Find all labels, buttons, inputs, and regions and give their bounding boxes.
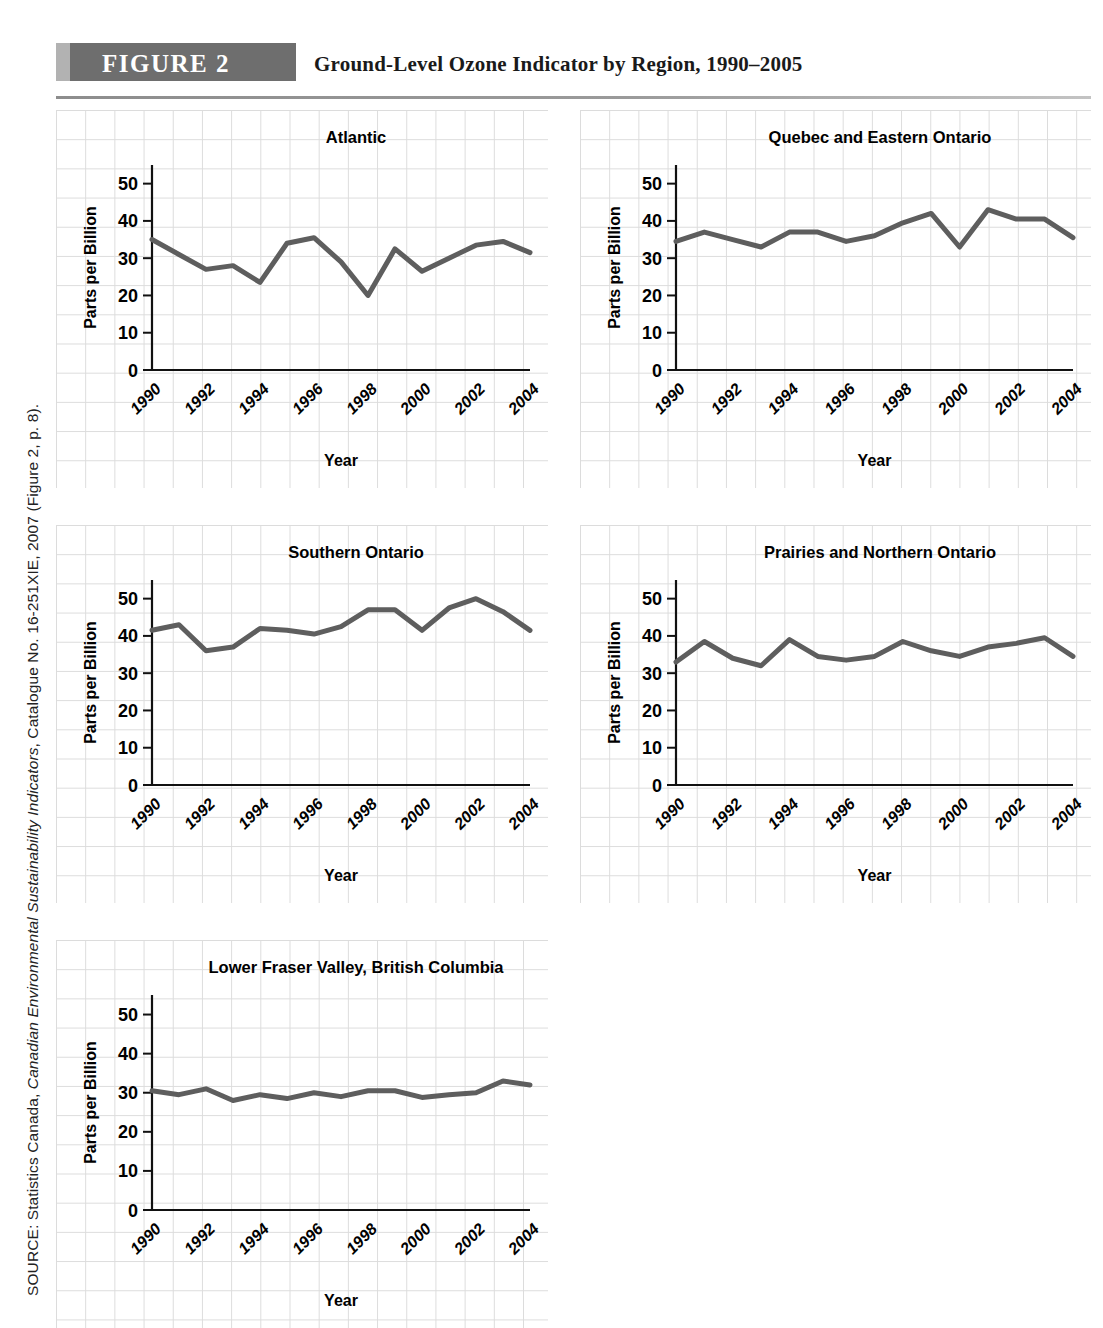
y-tick-label: 40	[642, 211, 662, 231]
figure-title: Ground-Level Ozone Indicator by Region, …	[314, 52, 803, 77]
x-tick-label: 1998	[878, 380, 915, 417]
y-tick-label: 0	[128, 1201, 138, 1221]
plot-title: Atlantic	[326, 128, 387, 146]
y-tick-label: 20	[642, 701, 662, 721]
figure-number-label: FIGURE 2	[102, 50, 230, 78]
data-series-line	[676, 638, 1073, 666]
y-tick-label: 0	[652, 776, 662, 796]
x-tick-label: 1996	[289, 795, 326, 832]
x-tick-label: 1992	[181, 1220, 218, 1257]
x-tick-label: 1992	[708, 380, 745, 417]
y-tick-label: 30	[118, 664, 138, 684]
panel-prairies-svg: Prairies and Northern Ontario01020304050…	[580, 525, 1091, 903]
plot-title: Prairies and Northern Ontario	[764, 543, 996, 561]
y-tick-label: 50	[118, 174, 138, 194]
x-tick-label: 2002	[991, 795, 1029, 833]
y-tick-label: 0	[128, 776, 138, 796]
x-tick-label: 1994	[235, 795, 272, 832]
panel-lower-fraser-valley: Lower Fraser Valley, British Columbia010…	[56, 940, 548, 1328]
x-tick-label: 1998	[343, 795, 380, 832]
figure-header: FIGURE 2 Ground-Level Ozone Indicator by…	[56, 38, 1091, 96]
plot-title: Quebec and Eastern Ontario	[769, 128, 992, 146]
x-tick-label: 1998	[343, 380, 380, 417]
x-axis-label: Year	[858, 452, 892, 469]
x-tick-label: 2002	[991, 380, 1029, 418]
y-tick-label: 10	[118, 1161, 138, 1181]
y-tick-label: 20	[118, 701, 138, 721]
panel-southern-ontario: Southern Ontario01020304050Parts per Bil…	[56, 525, 548, 903]
y-axis-label: Parts per Billion	[82, 206, 99, 329]
x-tick-label: 1990	[651, 380, 688, 417]
x-tick-label: 1994	[764, 795, 801, 832]
source-note-text: SOURCE: Statistics Canada, Canadian Envi…	[24, 0, 42, 1302]
axes-lines	[676, 580, 1073, 785]
y-tick-label: 30	[642, 249, 662, 269]
x-tick-label: 2000	[934, 380, 972, 418]
panel-lower-fraser-valley-svg: Lower Fraser Valley, British Columbia010…	[56, 940, 548, 1328]
y-axis-label: Parts per Billion	[82, 621, 99, 744]
data-series-line	[152, 599, 530, 651]
x-axis-label: Year	[324, 452, 358, 469]
y-tick-label: 30	[642, 664, 662, 684]
axes-lines	[676, 165, 1073, 370]
data-series-line	[152, 238, 530, 296]
y-tick-label: 10	[118, 323, 138, 343]
data-series-line	[152, 1081, 530, 1101]
x-tick-label: 1990	[127, 1220, 164, 1257]
y-tick-label: 0	[652, 361, 662, 381]
y-tick-label: 30	[118, 249, 138, 269]
source-prefix: SOURCE: Statistics Canada,	[24, 1089, 41, 1296]
y-tick-label: 20	[642, 286, 662, 306]
panel-atlantic: Atlantic01020304050Parts per Billion1990…	[56, 110, 548, 488]
data-series-line	[676, 210, 1073, 247]
x-tick-label: 1998	[343, 1220, 380, 1257]
plot-title: Southern Ontario	[288, 543, 424, 561]
y-tick-label: 30	[118, 1083, 138, 1103]
source-publication-title: Canadian Environmental Sustainability In…	[24, 747, 41, 1089]
panel-quebec-svg: Quebec and Eastern Ontario01020304050Par…	[580, 110, 1091, 488]
y-tick-label: 0	[128, 361, 138, 381]
source-suffix: , Catalogue No. 16-251XIE, 2007 (Figure …	[24, 404, 41, 748]
y-tick-label: 40	[642, 626, 662, 646]
panel-atlantic-svg: Atlantic01020304050Parts per Billion1990…	[56, 110, 548, 488]
x-tick-label: 1990	[651, 795, 688, 832]
x-tick-label: 1996	[289, 1220, 326, 1257]
x-tick-label: 2002	[450, 380, 488, 418]
y-tick-label: 40	[118, 1044, 138, 1064]
x-tick-label: 2004	[504, 1220, 542, 1258]
x-tick-label: 2000	[396, 1220, 434, 1258]
x-tick-label: 1996	[821, 795, 858, 832]
x-tick-label: 2004	[1047, 795, 1085, 833]
y-axis-label: Parts per Billion	[606, 206, 623, 329]
x-axis-label: Year	[324, 1292, 358, 1309]
figure-number-badge: FIGURE 2	[56, 43, 296, 81]
x-tick-label: 2000	[934, 795, 972, 833]
x-tick-label: 2000	[396, 795, 434, 833]
x-tick-label: 1990	[127, 380, 164, 417]
y-axis-label: Parts per Billion	[82, 1041, 99, 1164]
panel-quebec: Quebec and Eastern Ontario01020304050Par…	[580, 110, 1091, 488]
x-tick-label: 1990	[127, 795, 164, 832]
y-tick-label: 40	[118, 626, 138, 646]
y-tick-label: 20	[118, 1122, 138, 1142]
panel-southern-ontario-svg: Southern Ontario01020304050Parts per Bil…	[56, 525, 548, 903]
x-tick-label: 2004	[504, 380, 542, 418]
axes-lines	[152, 995, 530, 1210]
y-axis-label: Parts per Billion	[606, 621, 623, 744]
x-tick-label: 2004	[504, 795, 542, 833]
x-tick-label: 1994	[764, 380, 801, 417]
y-tick-label: 50	[118, 1005, 138, 1025]
x-tick-label: 2002	[450, 1220, 488, 1258]
x-tick-label: 1998	[878, 795, 915, 832]
x-axis-label: Year	[858, 867, 892, 884]
plot-title: Lower Fraser Valley, British Columbia	[209, 958, 505, 976]
source-note: SOURCE: Statistics Canada, Canadian Envi…	[0, 0, 40, 1328]
x-tick-label: 2004	[1047, 380, 1085, 418]
x-tick-label: 1992	[181, 380, 218, 417]
x-axis-label: Year	[324, 867, 358, 884]
y-tick-label: 10	[642, 738, 662, 758]
x-tick-label: 1992	[181, 795, 218, 832]
x-tick-label: 2002	[450, 795, 488, 833]
y-tick-label: 50	[118, 589, 138, 609]
x-tick-label: 1996	[821, 380, 858, 417]
